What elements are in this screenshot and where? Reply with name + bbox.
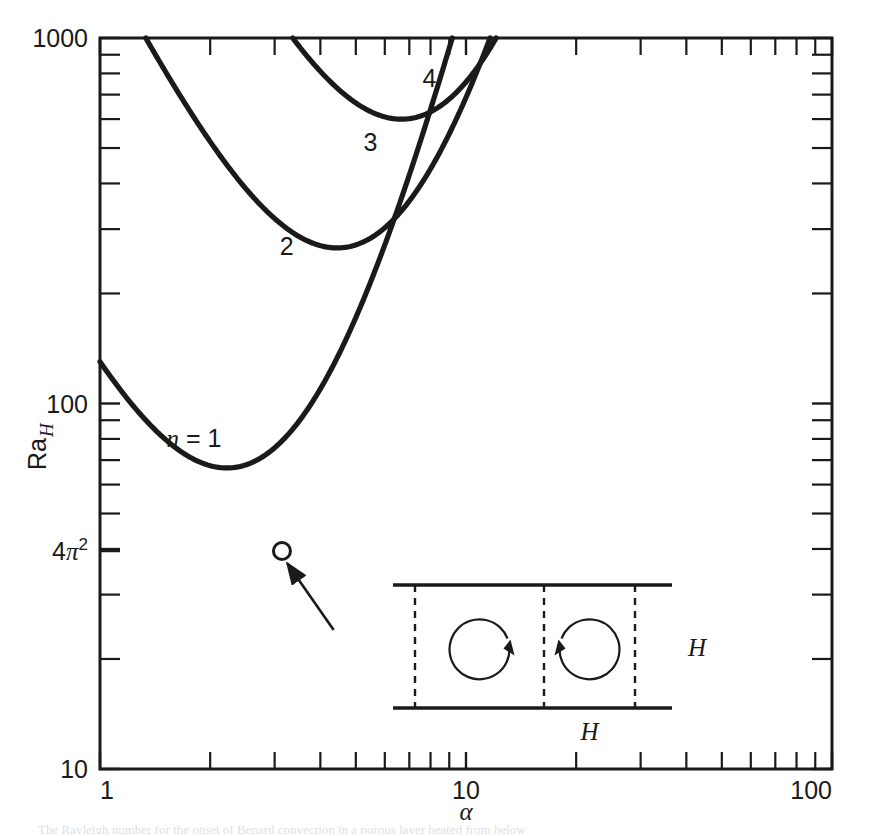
inset-width-label: H: [579, 718, 600, 745]
curve-label-1: n = 1: [167, 424, 222, 452]
critical-point-circle: [273, 543, 290, 560]
caption-fragment: The Rayleigh number for the onset of Ben…: [38, 822, 838, 834]
critical-point-marker: [273, 543, 290, 560]
curve-n-1: [100, 38, 452, 468]
x-tick-label: 1: [100, 776, 114, 804]
y-tick-label: 10: [60, 755, 88, 783]
curve-label-4: 4: [422, 64, 436, 92]
inset-convection-rolls: HH: [393, 585, 708, 745]
x-tick-label: 100: [790, 776, 832, 804]
figure-container: n = 1234 110100 1000100104π2 α RaH HH Th…: [0, 0, 871, 836]
pointer-line: [287, 563, 333, 630]
annotation-arrow: [287, 563, 333, 630]
x-axis-label: α: [459, 798, 473, 825]
x-axis-ticks: [100, 38, 832, 769]
data-curves: [100, 38, 496, 468]
y-tick-label-4pi2: 4π2: [52, 535, 88, 565]
y-tick-label: 100: [46, 390, 88, 418]
y-axis-label: RaH: [23, 422, 57, 470]
inset-roll-left: [450, 619, 510, 679]
y-tick-label: 1000: [32, 24, 88, 52]
plot-frame: [100, 38, 832, 769]
inset-height-label: H: [687, 634, 708, 661]
curve-label-2: 2: [280, 232, 294, 260]
y-axis-label-group: RaH: [23, 422, 57, 470]
curve-label-3: 3: [364, 128, 378, 156]
axes-frame: [100, 38, 832, 769]
inset-roll-right: [559, 619, 619, 679]
y-axis-ticks: [100, 38, 832, 769]
rayleigh-stability-chart: n = 1234 110100 1000100104π2 α RaH HH: [0, 0, 871, 836]
curve-labels-group: n = 1234: [167, 64, 437, 452]
y-axis-tick-labels: 1000100104π2: [32, 24, 88, 783]
